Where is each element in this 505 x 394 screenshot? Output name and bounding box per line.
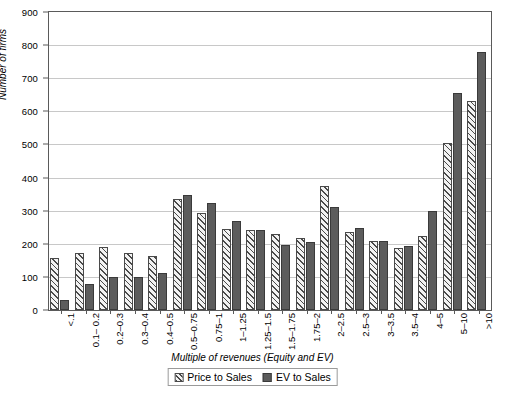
x-tick-label: 1–1.25 xyxy=(237,313,248,342)
y-tick-label: 200 xyxy=(22,238,38,249)
y-axis-title: Number of firms xyxy=(0,0,8,100)
bar-group xyxy=(74,12,99,310)
bar-price-to-sales xyxy=(345,232,354,310)
x-tick-label: 2–2.5 xyxy=(335,313,346,337)
bar-price-to-sales xyxy=(271,234,280,310)
bar-ev-to-sales xyxy=(453,93,462,310)
bar-group xyxy=(196,12,221,310)
bar-ev-to-sales xyxy=(134,277,143,310)
y-tick-label: 600 xyxy=(22,106,38,117)
chart-legend: Price to Sales EV to Sales xyxy=(167,368,338,386)
bar-ev-to-sales xyxy=(60,300,69,310)
x-tick-mark xyxy=(86,311,87,314)
y-tick-label: 500 xyxy=(22,139,38,150)
legend-item-ev-to-sales: EV to Sales xyxy=(263,371,331,383)
x-tick-mark xyxy=(282,311,283,314)
x-tick-mark xyxy=(184,311,185,314)
bar-ev-to-sales xyxy=(330,207,339,310)
bar-ev-to-sales xyxy=(281,245,290,310)
bar-group xyxy=(344,12,369,310)
x-tick-label: 0.2–0.3 xyxy=(114,313,125,345)
bar-price-to-sales xyxy=(197,213,206,310)
bar-ev-to-sales xyxy=(207,203,216,310)
x-axis: <.10.1– 0.20.2–0.30.3–0.40.4–0.50.5–0.75… xyxy=(49,313,491,373)
legend-label-ev-to-sales: EV to Sales xyxy=(276,371,331,383)
bar-price-to-sales xyxy=(173,199,182,310)
bar-price-to-sales xyxy=(75,253,84,310)
bar-ev-to-sales xyxy=(183,195,192,310)
bar-group xyxy=(393,12,418,310)
y-tick-label: 400 xyxy=(22,172,38,183)
legend-swatch-price-to-sales xyxy=(174,373,183,382)
x-tick-mark xyxy=(479,311,480,314)
x-tick-label: 0.5–0.75 xyxy=(188,313,199,350)
bar-price-to-sales xyxy=(467,101,476,310)
bar-price-to-sales xyxy=(369,241,378,310)
bar-price-to-sales xyxy=(148,256,157,310)
bar-price-to-sales xyxy=(124,253,133,310)
bar-price-to-sales xyxy=(50,258,59,310)
x-axis-title: Multiple of revenues (Equity and EV) xyxy=(0,352,505,363)
bar-ev-to-sales xyxy=(232,221,241,310)
bar-group xyxy=(221,12,246,310)
bar-group xyxy=(123,12,148,310)
bar-group xyxy=(172,12,197,310)
x-tick-mark xyxy=(454,311,455,314)
bar-price-to-sales xyxy=(320,186,329,310)
x-tick-label: 1.25–1.5 xyxy=(262,313,273,350)
bar-group xyxy=(417,12,442,310)
bar-group xyxy=(270,12,295,310)
x-tick-label: 0.75–1 xyxy=(213,313,224,342)
bar-group xyxy=(98,12,123,310)
bar-group xyxy=(466,12,491,310)
y-tick-label: 900 xyxy=(22,7,38,18)
x-tick-label: 2.5–3 xyxy=(360,313,371,337)
bar-price-to-sales xyxy=(418,236,427,311)
x-tick-mark xyxy=(356,311,357,314)
bar-price-to-sales xyxy=(246,230,255,310)
x-tick-mark xyxy=(61,311,62,314)
x-tick-label: 0.1– 0.2 xyxy=(90,313,101,347)
x-tick-mark xyxy=(405,311,406,314)
bar-price-to-sales xyxy=(296,238,305,311)
x-tick-mark xyxy=(110,311,111,314)
bar-group xyxy=(295,12,320,310)
x-tick-label: 0.4–0.5 xyxy=(164,313,175,345)
x-tick-mark xyxy=(430,311,431,314)
y-tick-label: 0 xyxy=(33,305,38,316)
bar-ev-to-sales xyxy=(256,230,265,310)
x-tick-mark xyxy=(160,311,161,314)
bar-chart: 0100200300400500600700800900 Number of f… xyxy=(0,0,505,394)
bar-group xyxy=(319,12,344,310)
bar-ev-to-sales xyxy=(404,246,413,310)
x-tick-label: 3.5–4 xyxy=(409,313,420,337)
x-tick-mark xyxy=(307,311,308,314)
bar-group xyxy=(442,12,467,310)
bar-price-to-sales xyxy=(222,229,231,310)
bar-group xyxy=(245,12,270,310)
y-tick-label: 300 xyxy=(22,205,38,216)
legend-label-price-to-sales: Price to Sales xyxy=(187,371,252,383)
x-tick-mark xyxy=(381,311,382,314)
bar-ev-to-sales xyxy=(355,228,364,310)
x-tick-mark xyxy=(209,311,210,314)
legend-swatch-ev-to-sales xyxy=(263,373,272,382)
bar-ev-to-sales xyxy=(306,242,315,310)
bar-price-to-sales xyxy=(99,247,108,310)
x-tick-mark xyxy=(258,311,259,314)
bar-ev-to-sales xyxy=(109,277,118,310)
bar-price-to-sales xyxy=(394,248,403,310)
y-tick-label: 700 xyxy=(22,73,38,84)
bar-ev-to-sales xyxy=(428,211,437,310)
bar-ev-to-sales xyxy=(477,52,486,310)
bar-group xyxy=(368,12,393,310)
bar-price-to-sales xyxy=(443,143,452,310)
x-tick-label: 1.75–2 xyxy=(311,313,322,342)
bar-ev-to-sales xyxy=(158,273,167,310)
y-tick-label: 800 xyxy=(22,40,38,51)
bars-layer xyxy=(49,12,491,310)
x-tick-label: 4–5 xyxy=(434,313,445,329)
x-tick-label: 1.5–1.75 xyxy=(286,313,297,350)
x-tick-mark xyxy=(135,311,136,314)
bar-ev-to-sales xyxy=(85,284,94,310)
